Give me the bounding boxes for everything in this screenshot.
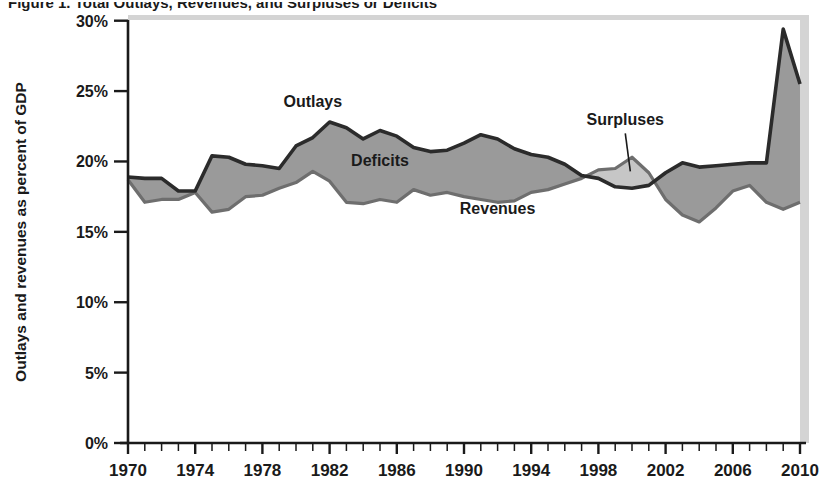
x-tick-label: 1998 xyxy=(579,461,617,480)
y-tick-label: 5% xyxy=(85,365,108,382)
annotation-revenues: Revenues xyxy=(460,200,536,217)
title-clip-mask xyxy=(0,0,825,2)
annotation-deficits: Deficits xyxy=(351,152,409,169)
y-tick-group: 0%5%10%15%20%25%30% xyxy=(76,13,128,452)
x-tick-label: 1994 xyxy=(512,461,550,480)
y-axis-label: Outlays and revenues as percent of GDP xyxy=(12,82,29,382)
plot-shadow-right xyxy=(800,15,809,443)
x-tick-label: 1982 xyxy=(311,461,349,480)
x-tick-label: 1970 xyxy=(109,461,147,480)
x-tick-label: 2002 xyxy=(647,461,685,480)
y-tick-label: 0% xyxy=(85,435,108,452)
x-tick-group: 1970197419781982198619901994199820022006… xyxy=(109,443,819,480)
y-tick-label: 25% xyxy=(76,83,108,100)
y-tick-label: 30% xyxy=(76,13,108,30)
annotation-surpluses-text: Surpluses xyxy=(587,111,664,128)
annotation-deficits-text: Deficits xyxy=(351,152,409,169)
x-tick-label: 2010 xyxy=(781,461,819,480)
annotation-outlays-text: Outlays xyxy=(283,93,342,110)
chart-figure: Figure 1. Total Outlays, Revenues, and S… xyxy=(0,0,825,489)
x-tick-label: 2006 xyxy=(714,461,752,480)
y-tick-label: 20% xyxy=(76,153,108,170)
y-tick-label: 15% xyxy=(76,224,108,241)
annotation-outlays: Outlays xyxy=(283,93,342,110)
y-tick-label: 10% xyxy=(76,294,108,311)
x-tick-label: 1974 xyxy=(176,461,214,480)
plot-background xyxy=(128,20,800,443)
x-tick-label: 1990 xyxy=(445,461,483,480)
x-tick-label: 1986 xyxy=(378,461,416,480)
annotation-revenues-text: Revenues xyxy=(460,200,536,217)
y-axis-label-text: Outlays and revenues as percent of GDP xyxy=(12,82,29,382)
x-tick-label: 1978 xyxy=(243,461,281,480)
